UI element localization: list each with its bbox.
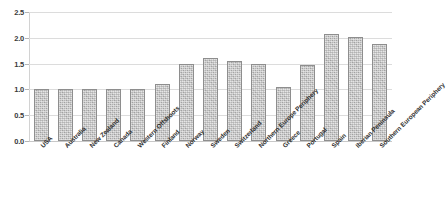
bar bbox=[179, 64, 194, 141]
bar bbox=[348, 37, 363, 141]
y-axis-tick-label: 1.0 bbox=[14, 85, 24, 94]
bar bbox=[58, 89, 73, 141]
y-axis-tick-label: 2.5 bbox=[14, 8, 24, 17]
plot-area bbox=[29, 12, 392, 141]
y-axis-tick-label: 0.5 bbox=[14, 111, 24, 120]
y-axis-tick-label: 1.5 bbox=[14, 59, 24, 68]
y-axis-tick-label: 0.0 bbox=[14, 137, 24, 146]
y-axis-tick-mark bbox=[25, 141, 29, 142]
bar bbox=[203, 58, 218, 141]
bar bbox=[324, 34, 339, 141]
y-axis-tick-label: 2.0 bbox=[14, 33, 24, 42]
bar bbox=[82, 89, 97, 141]
bar bbox=[227, 61, 242, 141]
bar bbox=[34, 89, 49, 141]
